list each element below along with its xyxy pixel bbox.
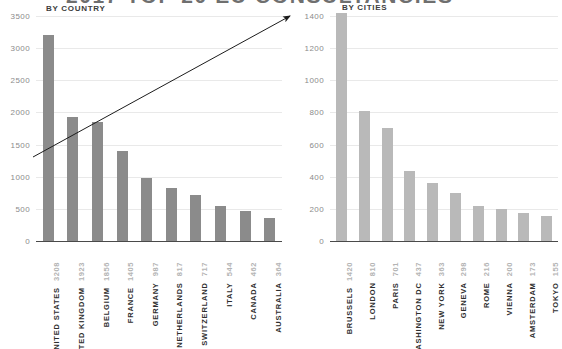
x-axis-category-label: GENEVA298 bbox=[459, 262, 468, 318]
bar bbox=[541, 216, 552, 241]
bar bbox=[518, 213, 529, 241]
category-name: GENEVA bbox=[459, 282, 468, 318]
chart-by-country: 0500100015002000250030003500UNITED STATE… bbox=[0, 16, 288, 341]
category-value: 1405 bbox=[126, 262, 135, 281]
bar bbox=[190, 195, 201, 241]
y-axis-tick-label: 1000 bbox=[0, 172, 30, 181]
x-axis-category-label: NEW YORK363 bbox=[437, 262, 446, 330]
bar bbox=[43, 35, 54, 241]
bar bbox=[141, 178, 152, 241]
x-axis-category-label: AMSTERDAM173 bbox=[528, 262, 537, 338]
category-value: 3208 bbox=[52, 262, 61, 281]
y-axis-tick-label: 200 bbox=[296, 204, 324, 213]
plot-area bbox=[36, 16, 282, 241]
gridline bbox=[330, 16, 558, 17]
gridline bbox=[330, 80, 558, 81]
infographic-canvas: 2017 TOP 20 EU CONSULTANCIES BY COUNTRY … bbox=[0, 0, 562, 349]
y-axis-tick-label: 0 bbox=[296, 237, 324, 246]
bar bbox=[359, 111, 370, 241]
category-value: 717 bbox=[200, 262, 209, 276]
bar bbox=[382, 128, 393, 241]
y-axis-tick-label: 800 bbox=[296, 108, 324, 117]
axis-baseline bbox=[330, 241, 558, 242]
x-axis-category-label: FRANCE1405 bbox=[126, 262, 135, 323]
category-value: 987 bbox=[151, 262, 160, 276]
x-axis-category-label: NETHERLANDS817 bbox=[175, 262, 184, 348]
bar bbox=[166, 188, 177, 241]
category-name: AMSTERDAM bbox=[528, 282, 537, 338]
y-axis-tick-label: 2500 bbox=[0, 76, 30, 85]
category-value: 364 bbox=[274, 262, 283, 276]
bar bbox=[240, 211, 251, 241]
category-value: 1420 bbox=[345, 262, 354, 281]
y-axis-tick-label: 0 bbox=[0, 237, 30, 246]
x-axis-category-label: AUSTRALIA364 bbox=[274, 262, 283, 333]
bar bbox=[473, 206, 484, 241]
bar bbox=[117, 151, 128, 241]
category-name: NEW YORK bbox=[437, 282, 446, 330]
bar bbox=[336, 13, 347, 241]
y-axis-tick-label: 400 bbox=[296, 172, 324, 181]
category-value: 1856 bbox=[102, 262, 111, 281]
gridline bbox=[36, 80, 282, 81]
category-name: AUSTRALIA bbox=[274, 282, 283, 333]
x-axis-category-label: TOKYO155 bbox=[551, 262, 560, 313]
chart-by-cities: 0200400600800100012001400BRUSSELS1420LON… bbox=[296, 16, 562, 341]
x-axis-category-label: GERMANY987 bbox=[151, 262, 160, 326]
x-axis-category-label: WASHINGTON DC437 bbox=[414, 262, 423, 349]
plot-area bbox=[330, 16, 558, 241]
x-axis-category-label: BELGIUM1856 bbox=[102, 262, 111, 327]
category-value: 173 bbox=[528, 262, 537, 276]
category-name: ITALY bbox=[225, 282, 234, 306]
category-value: 216 bbox=[482, 262, 491, 276]
category-value: 1923 bbox=[77, 262, 86, 281]
x-axis-category-label: LONDON810 bbox=[368, 262, 377, 320]
category-name: GERMANY bbox=[151, 282, 160, 326]
category-name: VIENNA bbox=[505, 282, 514, 315]
y-axis-tick-label: 1400 bbox=[296, 12, 324, 21]
category-value: 298 bbox=[459, 262, 468, 276]
category-name: BRUSSELS bbox=[345, 287, 354, 334]
x-axis-category-label: UNITED KINGDOM1923 bbox=[77, 262, 86, 349]
x-axis-category-label: PARIS701 bbox=[391, 262, 400, 309]
category-value: 810 bbox=[368, 262, 377, 276]
gridline bbox=[36, 48, 282, 49]
category-name: FRANCE bbox=[126, 287, 135, 323]
category-name: UNITED KINGDOM bbox=[77, 287, 86, 349]
y-axis-tick-label: 1500 bbox=[0, 140, 30, 149]
x-axis-category-label: VIENNA200 bbox=[505, 262, 514, 315]
gridline bbox=[330, 48, 558, 49]
x-axis-category-label: ROME216 bbox=[482, 262, 491, 308]
y-axis-tick-label: 2000 bbox=[0, 108, 30, 117]
bar bbox=[450, 193, 461, 241]
y-axis-tick-label: 3000 bbox=[0, 44, 30, 53]
category-name: ROME bbox=[482, 282, 491, 308]
category-value: 462 bbox=[249, 262, 258, 276]
chart-subtitle-cities: BY CITIES bbox=[342, 3, 387, 12]
page-title: 2017 TOP 20 EU CONSULTANCIES bbox=[66, 0, 454, 8]
y-axis-tick-label: 500 bbox=[0, 204, 30, 213]
category-value: 544 bbox=[225, 262, 234, 276]
category-name: BELGIUM bbox=[102, 287, 111, 327]
bar bbox=[404, 171, 415, 241]
y-axis-tick-label: 1200 bbox=[296, 44, 324, 53]
bar bbox=[427, 183, 438, 241]
y-axis-tick-label: 600 bbox=[296, 140, 324, 149]
x-axis-category-label: SWITZERLAND717 bbox=[200, 262, 209, 346]
category-value: 701 bbox=[391, 262, 400, 276]
bar bbox=[92, 122, 103, 241]
chart-subtitle-country: BY COUNTRY bbox=[46, 4, 105, 13]
x-axis-category-label: CANADA462 bbox=[249, 262, 258, 320]
category-name: PARIS bbox=[391, 282, 400, 308]
category-name: LONDON bbox=[368, 282, 377, 319]
x-axis-category-label: ITALY544 bbox=[225, 262, 234, 307]
bar bbox=[215, 206, 226, 241]
category-value: 437 bbox=[414, 262, 423, 276]
category-name: CANADA bbox=[249, 282, 258, 319]
x-axis-category-label: BRUSSELS1420 bbox=[345, 262, 354, 334]
bar bbox=[496, 209, 507, 241]
category-value: 155 bbox=[551, 262, 560, 276]
category-name: UNITED STATES bbox=[52, 287, 61, 349]
x-axis-category-label: UNITED STATES3208 bbox=[52, 262, 61, 349]
category-value: 200 bbox=[505, 262, 514, 276]
